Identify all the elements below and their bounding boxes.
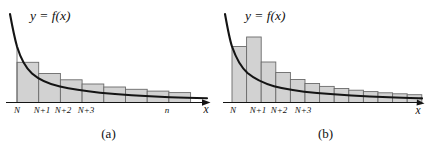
panel-a-tick-N1: N+1: [33, 105, 51, 115]
panel-b-tick-N: N: [229, 105, 237, 115]
panel-a-tick-N2: N+2: [54, 105, 72, 115]
panel-a-axis-label: x: [202, 103, 209, 115]
panel-b-axis-label: x: [414, 104, 421, 116]
panel-b-function-label: y = f(x): [243, 8, 286, 23]
integral-test-figure: N N+1 N+2 N+3 n x y = f(x) (a): [0, 0, 434, 153]
panel-b-plot: N N+1 N+2 N+3 x y = f(x): [217, 0, 434, 128]
bar-rect: [247, 37, 262, 103]
panel-b-tick-N3: N+3: [294, 105, 312, 115]
bar-rect: [39, 74, 61, 103]
panel-a-tick-N: N: [13, 105, 21, 115]
panel-b-caption: (b): [217, 126, 434, 142]
bar-rect: [60, 80, 82, 103]
panel-b: N N+1 N+2 N+3 x y = f(x) (b): [217, 0, 434, 153]
panel-a-function-label: y = f(x): [28, 8, 71, 23]
panel-a-tick-n: n: [165, 105, 170, 115]
panel-a-tick-N3: N+3: [77, 105, 95, 115]
panel-b-tick-N2: N+2: [270, 105, 288, 115]
panel-a-plot: N N+1 N+2 N+3 n x y = f(x): [0, 0, 217, 128]
panel-a: N N+1 N+2 N+3 n x y = f(x) (a): [0, 0, 217, 153]
panel-b-rectangles: [232, 37, 422, 103]
panel-b-tick-N1: N+1: [249, 105, 267, 115]
panel-a-caption: (a): [0, 126, 217, 142]
